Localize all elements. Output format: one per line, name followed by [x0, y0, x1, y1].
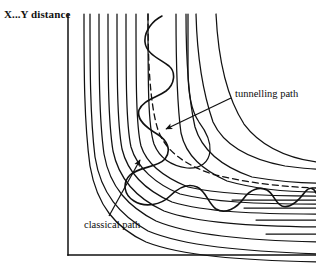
contour-line-valley-floor [136, 14, 316, 196]
contour-line-1 [90, 14, 316, 254]
contour-line-4 [117, 14, 316, 214]
contour-line-5 [126, 14, 316, 204]
tunnelling-leader-line [166, 98, 231, 129]
pes-contour-figure: X...Y distance [0, 0, 316, 271]
diagram-canvas [0, 0, 316, 271]
annotation-tunnelling-path: tunnelling path [235, 88, 298, 99]
contour-line-inner-closed [148, 14, 210, 168]
annotation-classical-path: classical path [84, 219, 140, 230]
